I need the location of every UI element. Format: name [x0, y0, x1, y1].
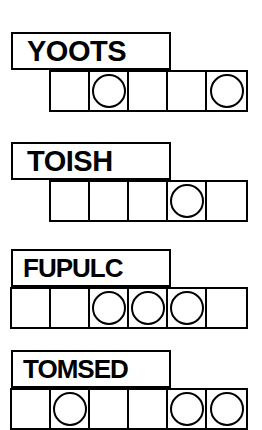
- answer-box[interactable]: [129, 390, 168, 428]
- answer-box[interactable]: [207, 182, 246, 220]
- circle-marker-icon: [170, 184, 204, 218]
- word-label-plate: TOMSED: [11, 350, 171, 388]
- answer-box[interactable]: [207, 289, 246, 327]
- answer-box[interactable]: [168, 289, 207, 327]
- answer-box[interactable]: [51, 72, 90, 110]
- answer-box[interactable]: [207, 390, 246, 428]
- answer-box[interactable]: [51, 390, 90, 428]
- answer-box[interactable]: [207, 72, 246, 110]
- answer-box[interactable]: [129, 289, 168, 327]
- word-label: YOOTS: [13, 36, 126, 66]
- answer-box-strip: [10, 287, 248, 329]
- circle-marker-icon: [92, 291, 126, 325]
- answer-box-strip: [10, 388, 248, 430]
- answer-box[interactable]: [12, 289, 51, 327]
- circle-marker-icon: [53, 392, 87, 426]
- word-label: TOMSED: [13, 354, 128, 384]
- answer-box[interactable]: [51, 182, 90, 220]
- answer-box[interactable]: [90, 289, 129, 327]
- answer-box[interactable]: [129, 182, 168, 220]
- answer-box[interactable]: [129, 72, 168, 110]
- circle-marker-icon: [131, 291, 165, 325]
- circle-marker-icon: [170, 392, 204, 426]
- answer-box[interactable]: [12, 390, 51, 428]
- answer-box[interactable]: [90, 72, 129, 110]
- word-label-plate: FUPULC: [11, 249, 171, 287]
- word-label-plate: TOISH: [11, 142, 171, 180]
- answer-box[interactable]: [90, 390, 129, 428]
- answer-box[interactable]: [90, 182, 129, 220]
- word-label: TOISH: [13, 146, 113, 176]
- circle-marker-icon: [92, 74, 126, 108]
- word-label-plate: YOOTS: [11, 32, 171, 70]
- answer-box-strip: [49, 180, 248, 222]
- answer-box[interactable]: [51, 289, 90, 327]
- answer-box[interactable]: [168, 182, 207, 220]
- answer-box[interactable]: [168, 72, 207, 110]
- worksheet-canvas: YOOTSTOISHFUPULCTOMSED: [0, 0, 262, 430]
- circle-marker-icon: [210, 392, 244, 426]
- circle-marker-icon: [170, 291, 204, 325]
- word-label: FUPULC: [13, 253, 122, 283]
- answer-box[interactable]: [168, 390, 207, 428]
- circle-marker-icon: [210, 74, 244, 108]
- answer-box-strip: [49, 70, 248, 112]
